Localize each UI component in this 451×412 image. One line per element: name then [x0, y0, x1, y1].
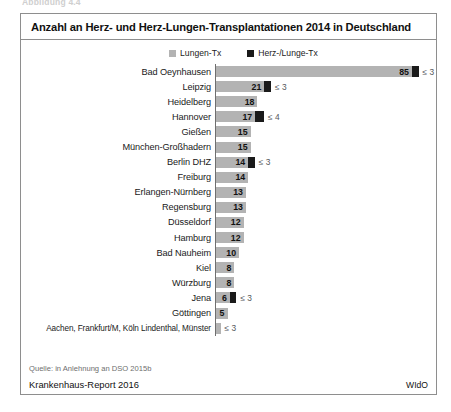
bar-segment-lungen-tx: 8 — [216, 262, 234, 273]
bar-segment-herz-lunge-tx — [230, 292, 237, 303]
bar-track: 5 — [215, 306, 436, 321]
bar-row-label: München-Großhadern — [21, 142, 215, 152]
bar-row: Bad Nauheim10 — [21, 245, 436, 260]
bar-group: 13 — [216, 187, 246, 198]
bar-row: Leipzig21≤ 3 — [21, 79, 436, 94]
bar-note-label: ≤ 3 — [271, 82, 287, 92]
bar-row-label: Berlin DHZ — [21, 157, 215, 167]
bar-row: Hannover17≤ 4 — [21, 109, 436, 124]
bar-group: 85≤ 3 — [216, 66, 434, 77]
bar-row-label: Erlangen-Nürnberg — [21, 187, 215, 197]
bar-group: 21≤ 3 — [216, 81, 287, 92]
bar-row-label: Düsseldorf — [21, 217, 215, 227]
bar-value-label: 12 — [231, 217, 244, 227]
bar-row-label: Hannover — [21, 112, 215, 122]
bar-row-label: Jena — [21, 293, 215, 303]
bar-segment-lungen-tx: 13 — [216, 187, 246, 198]
bar-track: ≤ 3 — [215, 321, 436, 336]
legend-label-herz-lunge-tx: Herz-/Lunge-Tx — [258, 48, 318, 58]
bar-segment-lungen-tx: 15 — [216, 126, 251, 137]
bar-row: Regensburg13 — [21, 200, 436, 215]
bar-segment-lungen-tx: 21 — [216, 81, 264, 92]
bar-row: Aachen, Frankfurt/M, Köln Lindenthal, Mü… — [21, 321, 436, 336]
bar-row-label: Würzburg — [21, 278, 215, 288]
bar-note-label: ≤ 3 — [221, 323, 237, 333]
chart-title: Anzahl an Herz- und Herz-Lungen-Transpla… — [31, 21, 411, 33]
bar-row-label: Göttingen — [21, 308, 215, 318]
bar-group: 5 — [216, 308, 228, 319]
figure-container: Anzahl an Herz- und Herz-Lungen-Transpla… — [20, 13, 437, 395]
plot-area: Lungen-Tx Herz-/Lunge-Tx Bad Oeynhausen8… — [21, 40, 436, 340]
bar-segment-herz-lunge-tx — [248, 157, 255, 168]
bar-value-label: 18 — [245, 97, 258, 107]
bar-segment-lungen-tx: 12 — [216, 232, 244, 243]
bar-track: 13 — [215, 185, 436, 200]
bar-row-label: Hamburg — [21, 233, 215, 243]
bar-row-label: Gießen — [21, 127, 215, 137]
bar-value-label: 12 — [231, 233, 244, 243]
bar-row-label: Heidelberg — [21, 97, 215, 107]
bar-segment-lungen-tx: 18 — [216, 96, 257, 107]
bar-rows: Bad Oeynhausen85≤ 3Leipzig21≤ 3Heidelber… — [21, 64, 436, 336]
bar-row-label: Leipzig — [21, 82, 215, 92]
footer-row: Krankenhaus-Report 2016 WIdO — [29, 379, 428, 390]
bar-track: 17≤ 4 — [215, 109, 436, 124]
bar-group: 15 — [216, 142, 251, 153]
bar-value-label: 10 — [226, 248, 239, 258]
bar-value-label: 13 — [233, 187, 246, 197]
bar-segment-lungen-tx: 14 — [216, 172, 248, 183]
bar-value-label: 6 — [222, 293, 230, 303]
bar-group: 12 — [216, 217, 244, 228]
bar-segment-lungen-tx: 6 — [216, 292, 230, 303]
title-bar: Anzahl an Herz- und Herz-Lungen-Transpla… — [21, 14, 436, 40]
bar-row: Düsseldorf12 — [21, 215, 436, 230]
bar-segment-herz-lunge-tx — [412, 66, 419, 77]
bar-group: 12 — [216, 232, 244, 243]
bar-segment-lungen-tx — [216, 323, 221, 334]
bar-segment-herz-lunge-tx — [264, 81, 271, 92]
bar-group: 13 — [216, 202, 246, 213]
bar-group: 14 — [216, 172, 248, 183]
bar-row: Berlin DHZ14≤ 3 — [21, 155, 436, 170]
bar-track: 85≤ 3 — [215, 64, 436, 79]
bar-row-label: Bad Oeynhausen — [21, 67, 215, 77]
bar-group: 10 — [216, 247, 239, 258]
bar-group: 15 — [216, 126, 251, 137]
bar-row: Kiel8 — [21, 260, 436, 275]
bar-track: 8 — [215, 275, 436, 290]
report-name: Krankenhaus-Report 2016 — [29, 379, 139, 390]
figure-footer: Quelle: in Anlehnung an DSO 2015b Kranke… — [21, 364, 436, 394]
bar-track: 14 — [215, 170, 436, 185]
bar-group: 6≤ 3 — [216, 292, 252, 303]
bar-value-label: 15 — [238, 142, 251, 152]
bar-group: 14≤ 3 — [216, 157, 270, 168]
bar-row: Heidelberg18 — [21, 94, 436, 109]
bar-row-label: Freiburg — [21, 172, 215, 182]
source-note: Quelle: in Anlehnung an DSO 2015b — [29, 364, 428, 373]
bar-segment-lungen-tx: 8 — [216, 277, 234, 288]
bar-group: ≤ 3 — [216, 323, 236, 334]
bar-row: Hamburg12 — [21, 230, 436, 245]
bar-value-label: 14 — [235, 172, 248, 182]
bar-value-label: 8 — [227, 263, 235, 273]
figure-caption-top: Abbildung 4.4 — [22, 0, 81, 7]
bar-track: 13 — [215, 200, 436, 215]
bar-note-label: ≤ 4 — [264, 112, 280, 122]
bar-group: 8 — [216, 262, 234, 273]
bar-track: 14≤ 3 — [215, 155, 436, 170]
bar-note-label: ≤ 3 — [419, 67, 435, 77]
bar-row: Freiburg14 — [21, 170, 436, 185]
bar-segment-lungen-tx: 85 — [216, 66, 412, 77]
bar-value-label: 5 — [220, 308, 228, 318]
legend-label-lungen-tx: Lungen-Tx — [180, 48, 221, 58]
bar-group: 18 — [216, 96, 257, 107]
bar-segment-lungen-tx: 12 — [216, 217, 244, 228]
bar-segment-lungen-tx: 13 — [216, 202, 246, 213]
legend-item-herz-lunge-tx: Herz-/Lunge-Tx — [247, 48, 318, 58]
bar-row-label: Bad Nauheim — [21, 248, 215, 258]
bar-segment-lungen-tx: 10 — [216, 247, 239, 258]
bar-note-label: ≤ 3 — [255, 157, 271, 167]
bar-row: Göttingen5 — [21, 306, 436, 321]
bar-value-label: 8 — [227, 278, 235, 288]
bar-track: 8 — [215, 260, 436, 275]
